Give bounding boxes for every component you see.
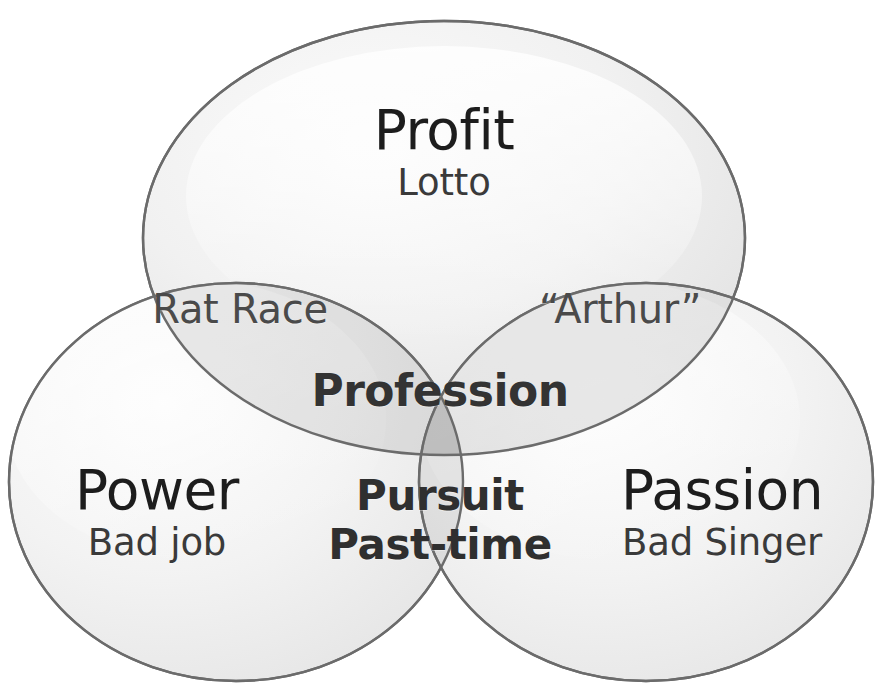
venn-diagram: Profit Lotto Rat Race “Arthur” Professio…: [0, 0, 882, 693]
venn-shapes: [0, 0, 882, 693]
